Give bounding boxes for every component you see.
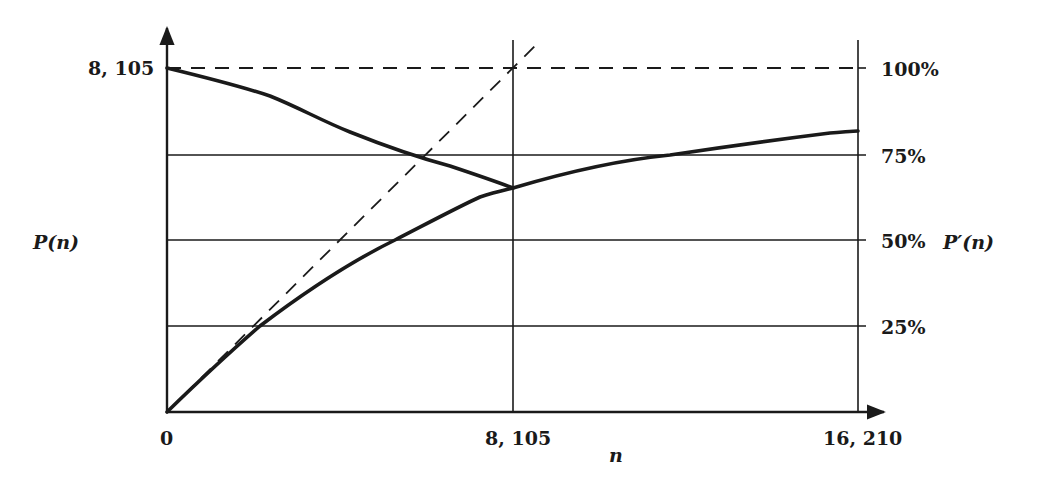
y-left-top-label: 8, 105 xyxy=(88,57,154,79)
pct-100-label: 100% xyxy=(881,58,939,80)
pct-75-label: 75% xyxy=(881,145,926,167)
y-right-axis-label: P′(n) xyxy=(942,231,994,253)
pct-50-label: 50% xyxy=(881,230,926,252)
x-axis-label: n xyxy=(609,444,623,466)
x-mid-label: 8, 105 xyxy=(485,427,551,449)
dashed-diagonal xyxy=(167,40,541,412)
x-zero-label: 0 xyxy=(160,427,173,449)
pct-25-label: 25% xyxy=(881,316,926,338)
x-max-label: 16, 210 xyxy=(823,427,902,449)
y-left-axis-label: P(n) xyxy=(32,231,79,253)
falling-curve xyxy=(167,68,513,188)
chart: 8, 105 P(n) P′(n) 100% 75% 50% 25% 0 8, … xyxy=(0,0,1039,485)
